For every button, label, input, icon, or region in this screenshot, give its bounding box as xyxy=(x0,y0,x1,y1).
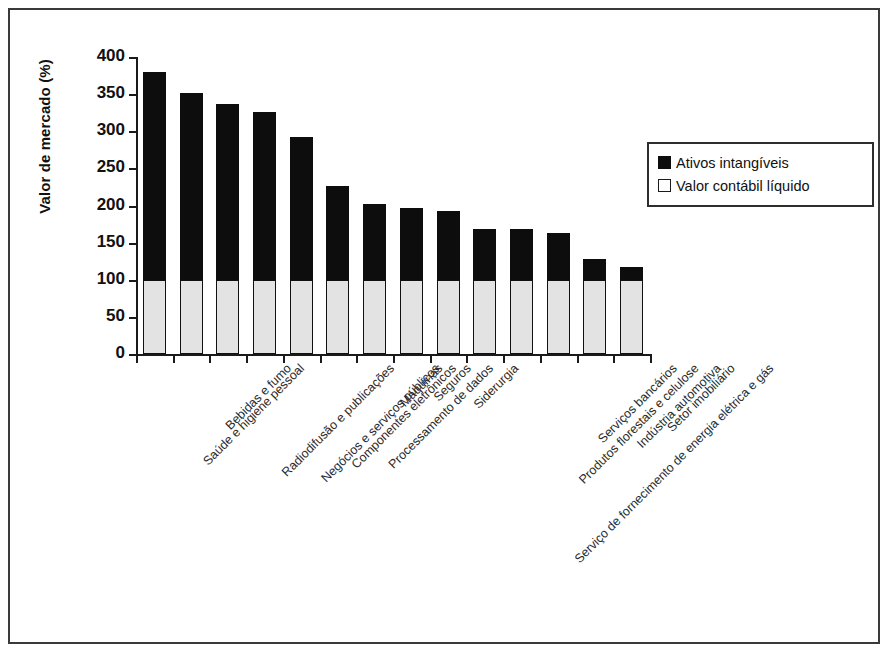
bar xyxy=(583,259,606,354)
y-tick-mark xyxy=(129,280,136,282)
legend-item: Valor contábil líquido xyxy=(658,174,863,197)
bar xyxy=(620,267,643,354)
y-tick-mark xyxy=(129,168,136,170)
bar-segment-valor-contabil-liquido xyxy=(216,280,239,354)
x-tick-mark xyxy=(356,356,358,363)
bar-segment-valor-contabil-liquido xyxy=(180,280,203,354)
bar-segment-valor-contabil-liquido xyxy=(363,280,386,354)
y-tick-mark xyxy=(129,57,136,59)
x-tick-mark xyxy=(577,356,579,363)
legend-item-label: Valor contábil líquido xyxy=(676,178,810,194)
y-axis-title: Valor de mercado (%) xyxy=(36,7,53,267)
bar-segment-ativos-intangiveis xyxy=(180,93,203,279)
bar-segment-ativos-intangiveis xyxy=(583,259,606,280)
bar-segment-ativos-intangiveis xyxy=(400,208,423,280)
y-tick-mark xyxy=(129,131,136,133)
bar-segment-ativos-intangiveis xyxy=(290,137,313,280)
bar-segment-valor-contabil-liquido xyxy=(473,280,496,354)
y-tick-label: 300 xyxy=(97,120,125,140)
bar xyxy=(400,208,423,354)
x-tick-mark xyxy=(503,356,505,363)
bar xyxy=(143,72,166,354)
filled-square-icon xyxy=(658,156,671,169)
bar xyxy=(473,229,496,354)
x-tick-mark xyxy=(173,356,175,363)
y-tick-label: 50 xyxy=(106,306,125,326)
y-tick-label: 200 xyxy=(97,195,125,215)
y-tick-label: 0 xyxy=(116,343,125,363)
bar xyxy=(363,204,386,354)
bar-segment-ativos-intangiveis xyxy=(363,204,386,280)
x-tick-mark xyxy=(540,356,542,363)
y-tick-label: 350 xyxy=(97,83,125,103)
bar xyxy=(437,211,460,354)
y-axis-line xyxy=(136,57,138,354)
bar-segment-ativos-intangiveis xyxy=(253,112,276,280)
bar-segment-ativos-intangiveis xyxy=(473,229,496,279)
y-tick-mark xyxy=(129,243,136,245)
y-tick-mark xyxy=(129,317,136,319)
bar-segment-ativos-intangiveis xyxy=(437,211,460,279)
bar-segment-valor-contabil-liquido xyxy=(583,280,606,354)
bar xyxy=(253,112,276,354)
y-tick-mark xyxy=(129,354,136,356)
bar-segment-ativos-intangiveis xyxy=(510,229,533,279)
y-tick-mark xyxy=(129,206,136,208)
x-axis-label: Saúde e higiene pessoal xyxy=(201,362,307,468)
bar-segment-valor-contabil-liquido xyxy=(326,280,349,354)
x-tick-mark xyxy=(320,356,322,363)
x-tick-mark xyxy=(246,356,248,363)
x-tick-mark xyxy=(209,356,211,363)
x-tick-mark xyxy=(613,356,615,363)
legend-item: Ativos intangíveis xyxy=(658,151,863,174)
bar-segment-valor-contabil-liquido xyxy=(437,280,460,354)
bar xyxy=(290,137,313,354)
bar-segment-valor-contabil-liquido xyxy=(143,280,166,354)
bar-segment-valor-contabil-liquido xyxy=(253,280,276,354)
bar xyxy=(510,229,533,354)
x-tick-mark xyxy=(393,356,395,363)
hollow-square-icon xyxy=(658,179,671,192)
bar-segment-ativos-intangiveis xyxy=(620,267,643,280)
y-tick-label: 250 xyxy=(97,157,125,177)
y-tick-label: 100 xyxy=(97,269,125,289)
chart-legend: Ativos intangíveisValor contábil líquido xyxy=(647,142,874,207)
bar xyxy=(326,186,349,354)
bar-segment-ativos-intangiveis xyxy=(216,104,239,280)
x-tick-mark xyxy=(650,356,652,363)
bar-segment-ativos-intangiveis xyxy=(326,186,349,280)
bar xyxy=(216,104,239,354)
legend-item-label: Ativos intangíveis xyxy=(676,155,789,171)
x-tick-mark xyxy=(466,356,468,363)
bar-segment-valor-contabil-liquido xyxy=(547,280,570,354)
bar xyxy=(180,93,203,354)
bar-segment-ativos-intangiveis xyxy=(143,72,166,280)
bar-segment-valor-contabil-liquido xyxy=(510,280,533,354)
plot-area: 050100150200250300350400 xyxy=(136,57,650,354)
y-tick-mark xyxy=(129,94,136,96)
bar-segment-valor-contabil-liquido xyxy=(290,280,313,354)
chart-figure-frame: Valor de mercado (%) 0501001502002503003… xyxy=(8,8,880,644)
bar-segment-valor-contabil-liquido xyxy=(620,280,643,354)
y-tick-label: 400 xyxy=(97,46,125,66)
bar xyxy=(547,233,570,354)
x-tick-mark xyxy=(136,356,138,363)
x-axis-label: Bebidas e fumo xyxy=(224,362,295,433)
bar-segment-valor-contabil-liquido xyxy=(400,280,423,354)
y-tick-label: 150 xyxy=(97,232,125,252)
bar-segment-ativos-intangiveis xyxy=(547,233,570,280)
